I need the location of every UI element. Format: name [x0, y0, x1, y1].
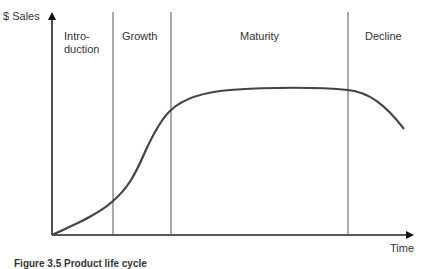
x-axis-label: Time [390, 242, 414, 255]
stage-label-growth: Growth [122, 30, 157, 43]
y-axis-label: $ Sales [3, 10, 40, 23]
sales-curve [52, 88, 404, 235]
stage-label-decline: Decline [365, 30, 402, 43]
stage-label-introduction: Intro- duction [64, 30, 99, 56]
figure-caption: Figure 3.5 Product life cycle [14, 258, 147, 269]
stage-label-maturity: Maturity [240, 30, 279, 43]
